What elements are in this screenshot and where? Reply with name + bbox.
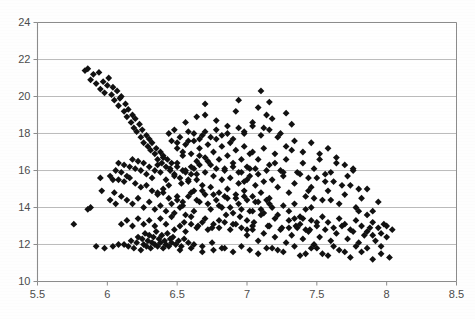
- y-axis-ticks: 1012141618202224: [18, 16, 37, 287]
- x-tick-label: 8: [384, 288, 390, 300]
- y-tick-label: 22: [18, 53, 30, 65]
- y-tick-label: 12: [18, 238, 30, 250]
- x-tick-label: 8.5: [449, 288, 464, 300]
- x-tick-label: 7.5: [309, 288, 324, 300]
- y-tick-label: 14: [18, 201, 30, 213]
- y-tick-label: 16: [18, 164, 30, 176]
- plot-background: [38, 23, 457, 282]
- chart-canvas: 10121416182022245.566.577.588.5: [0, 0, 475, 319]
- y-tick-label: 24: [18, 16, 30, 28]
- x-axis-ticks: 5.566.577.588.5: [30, 282, 464, 301]
- x-tick-label: 6: [104, 288, 110, 300]
- y-tick-label: 10: [18, 275, 30, 287]
- x-tick-label: 5.5: [30, 288, 45, 300]
- y-tick-label: 20: [18, 90, 30, 102]
- scatter-chart-figure: 10121416182022245.566.577.588.5: [0, 0, 475, 319]
- x-tick-label: 7: [244, 288, 250, 300]
- x-tick-label: 6.5: [170, 288, 185, 300]
- y-tick-label: 18: [18, 127, 30, 139]
